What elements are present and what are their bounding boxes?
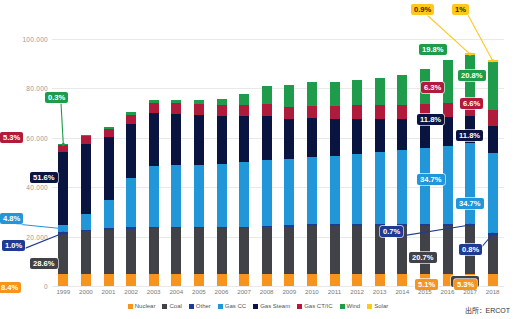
data-label-other-2018: 0.8% [459, 244, 482, 255]
bar-column [104, 14, 114, 286]
legend-item-coal[interactable]: Coal [162, 303, 181, 309]
bar-segment-gas-cc [104, 200, 114, 228]
bar-segment-gas-ct-ic [330, 106, 340, 119]
bar-segment-gas-ct-ic [375, 105, 385, 119]
bar-segment-nuclear [262, 274, 272, 286]
plot-area: 0.3%5.3%51.6%4.8%1.0%28.6%8.4%0.9%1%19.8… [52, 14, 504, 286]
legend-swatch [218, 304, 223, 309]
bar-segment-gas-steam [81, 144, 91, 215]
bar-segment-gas-steam [58, 152, 68, 225]
bar-segment-gas-cc [397, 150, 407, 224]
bar-segment-gas-steam [262, 116, 272, 160]
bar-segment-wind [262, 86, 272, 104]
bar-segment-gas-ct-ic [307, 106, 317, 119]
bar-segment-wind [375, 78, 385, 105]
bar-segment-nuclear [58, 274, 68, 286]
data-label-gas-ct-ic-1999: 5.3% [0, 132, 23, 143]
legend-swatch [297, 304, 302, 309]
data-label-gas-cc-1999: 4.8% [0, 213, 23, 224]
bar-segment-coal [284, 227, 294, 274]
bar-column [262, 14, 272, 286]
y-tick-label: 100.000 [22, 35, 48, 42]
bar-segment-nuclear [239, 274, 249, 286]
stacked-bar-chart: 020.00040.00060.00080.000100.000 0.3%5.3… [0, 0, 516, 319]
bar-segment-gas-cc [420, 148, 430, 224]
legend-item-gas-ct-ic[interactable]: Gas CT/IC [297, 303, 332, 309]
legend-item-solar[interactable]: Solar [367, 303, 388, 309]
legend-swatch [128, 304, 133, 309]
callout-leader-line [57, 99, 67, 148]
data-label-solar-2018: 1% [452, 4, 469, 15]
bar-segment-gas-ct-ic [352, 105, 362, 118]
data-label-gas-ct-ic-2018: 6.6% [460, 98, 483, 109]
legend-item-wind[interactable]: Wind [340, 303, 361, 309]
legend-item-gas-steam[interactable]: Gas Steam [253, 303, 290, 309]
legend-label: Gas CC [225, 303, 246, 309]
legend-item-gas-cc[interactable]: Gas CC [218, 303, 246, 309]
data-label-gas-ct-ic-2017: 6.3% [421, 82, 444, 93]
legend-swatch [162, 304, 167, 309]
bar-segment-gas-steam [171, 114, 181, 166]
bar-segment-coal [81, 231, 91, 274]
data-label-coal-2017: 20.7% [409, 252, 437, 263]
bar-segment-gas-ct-ic [149, 103, 159, 113]
data-label-gas-steam-1999: 51.6% [30, 172, 58, 183]
bar-segment-gas-ct-ic [194, 104, 204, 115]
bar-segment-wind [330, 82, 340, 105]
bar-segment-gas-steam [330, 119, 340, 156]
bar-column [239, 14, 249, 286]
data-label-gas-steam-2018: 11.8% [456, 130, 483, 141]
bar-segment-gas-cc [81, 214, 91, 230]
bar-segment-nuclear [284, 274, 294, 286]
bar-segment-gas-ct-ic [126, 115, 136, 124]
bar-segment-nuclear [352, 274, 362, 286]
bar-segment-gas-cc [284, 159, 294, 225]
bar-segment-gas-steam [284, 119, 294, 159]
callout-leader-line [392, 221, 474, 241]
bar-segment-other [307, 224, 317, 226]
bar-segment-other [262, 226, 272, 228]
bar-segment-gas-cc [262, 160, 272, 225]
bar-segment-gas-steam [375, 119, 385, 152]
bar-segment-gas-steam [126, 124, 136, 179]
bar-column [375, 14, 385, 286]
legend-label: Other [196, 303, 211, 309]
bar-segment-wind [217, 99, 227, 106]
bar-segment-coal [307, 226, 317, 274]
bar-segment-other [330, 224, 340, 226]
bar-segment-other [126, 227, 136, 228]
bar-segment-other [171, 227, 181, 228]
bar-segment-wind [104, 127, 114, 129]
bar-segment-gas-cc [171, 165, 181, 226]
bar-segment-gas-cc [194, 165, 204, 227]
data-label-coal-1999: 28.6% [30, 258, 58, 269]
y-tick-label: 60.000 [26, 134, 48, 141]
bar-segment-coal [126, 229, 136, 274]
bar-segment-gas-steam [352, 119, 362, 154]
legend-label: Nuclear [135, 303, 156, 309]
bar-segment-gas-steam [104, 137, 114, 200]
bar-segment-gas-ct-ic [239, 105, 249, 117]
bar-segment-nuclear [149, 274, 159, 286]
bar-segment-gas-cc [126, 178, 136, 227]
bar-column [149, 14, 159, 286]
data-label-nuclear-1999: 8.4% [0, 282, 21, 293]
bar-segment-gas-steam [239, 116, 249, 162]
bar-column [217, 14, 227, 286]
bar-segment-coal [352, 226, 362, 274]
legend-item-other[interactable]: Other [189, 303, 211, 309]
bar-segment-wind [194, 100, 204, 104]
legend-item-nuclear[interactable]: Nuclear [128, 303, 156, 309]
bar-segment-wind [284, 85, 294, 107]
bar-segment-gas-ct-ic [284, 107, 294, 119]
bar-segment-wind [149, 100, 159, 103]
bar-segment-gas-steam [149, 113, 159, 166]
bar-segment-other [284, 225, 294, 227]
bar-segment-wind [171, 100, 181, 103]
bar-segment-wind [488, 62, 498, 110]
bar-segment-nuclear [194, 274, 204, 286]
bar-segment-gas-ct-ic [262, 104, 272, 116]
bar-segment-gas-cc [352, 154, 362, 224]
data-label-solar-2017: 0.9% [411, 4, 434, 15]
bar-segment-other [81, 230, 91, 231]
